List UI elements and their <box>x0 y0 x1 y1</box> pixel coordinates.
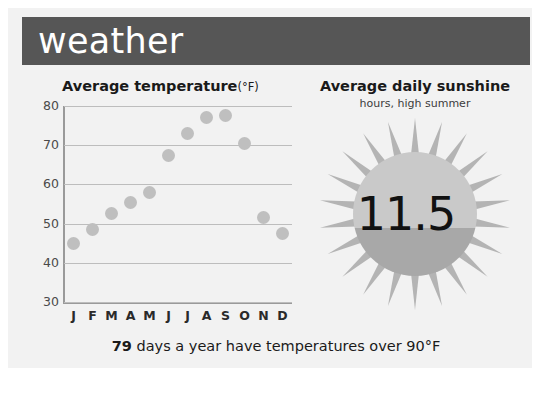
sun-ray <box>411 274 419 310</box>
temperature-chart-unit: (°F) <box>237 80 258 94</box>
sun-ray <box>444 133 467 166</box>
x-axis-tick-label: J <box>161 308 177 323</box>
x-axis-tick-label: A <box>123 308 139 323</box>
data-point <box>143 186 156 199</box>
sun-ray <box>363 262 386 295</box>
sun-ray <box>320 219 356 228</box>
sun-ray <box>428 270 442 306</box>
x-axis-tick-label: M <box>142 308 158 323</box>
sun-ray <box>468 235 503 254</box>
temperature-plot: 807060504030 JFMAMJJASOND <box>30 102 302 314</box>
x-axis-month-labels: JFMAMJJASOND <box>64 308 292 326</box>
data-point <box>105 207 118 220</box>
gridline <box>64 145 292 146</box>
x-axis-tick-label: A <box>199 308 215 323</box>
gridline <box>64 302 292 303</box>
sunshine-subtitle: hours, high summer <box>300 97 530 110</box>
sun-ray <box>388 122 402 158</box>
x-axis-tick-label: N <box>256 308 272 323</box>
sunshine-panel: Average daily sunshine hours, high summe… <box>300 78 530 338</box>
sun-ray <box>468 174 503 193</box>
sun-ray <box>474 200 510 209</box>
x-axis-tick-label: M <box>104 308 120 323</box>
y-axis-tick-label: 30 <box>31 296 59 308</box>
sun-icon <box>309 114 521 314</box>
y-axis-tick-label: 70 <box>31 139 59 151</box>
x-axis-tick-label: D <box>275 308 291 323</box>
gridline <box>64 224 292 225</box>
sun-disc-upper <box>353 152 477 228</box>
sun-ray <box>320 200 356 209</box>
y-axis-tick-label: 60 <box>31 178 59 190</box>
sun-ray <box>411 118 419 154</box>
sunshine-title: Average daily sunshine <box>300 78 530 94</box>
data-point <box>219 109 232 122</box>
page-title: weather <box>38 21 184 61</box>
y-axis-tick-label: 50 <box>31 218 59 230</box>
data-point <box>67 237 80 250</box>
temperature-chart-title-text: Average temperature <box>62 78 237 94</box>
sun-ray <box>328 235 363 254</box>
sun-ray <box>428 122 442 158</box>
gridline <box>64 184 292 185</box>
gridline <box>64 106 292 107</box>
data-point <box>181 127 194 140</box>
sun-ray <box>474 219 510 228</box>
x-axis-tick-label: F <box>85 308 101 323</box>
data-point <box>257 211 270 224</box>
plot-area <box>64 106 292 302</box>
y-axis-tick-label: 40 <box>31 257 59 269</box>
temperature-chart-panel: Average temperature(°F) 807060504030 JFM… <box>30 78 302 338</box>
x-axis-tick-label: O <box>237 308 253 323</box>
data-point <box>200 111 213 124</box>
footer-text: days a year have temperatures over 90°F <box>132 338 440 354</box>
gridline <box>64 263 292 264</box>
y-axis-tick-label: 80 <box>31 100 59 112</box>
footer-caption: 79 days a year have temperatures over 90… <box>22 338 530 354</box>
y-axis-tick-labels: 807060504030 <box>30 106 59 302</box>
data-point <box>162 149 175 162</box>
sun-ray <box>363 133 386 166</box>
sun-ray <box>388 270 402 306</box>
x-axis-tick-label: J <box>66 308 82 323</box>
x-axis-tick-label: J <box>180 308 196 323</box>
data-point <box>238 137 251 150</box>
data-point <box>276 227 289 240</box>
x-axis-tick-label: S <box>218 308 234 323</box>
footer-number: 79 <box>112 338 132 354</box>
data-point <box>86 223 99 236</box>
sun-ray <box>328 174 363 193</box>
data-point <box>124 196 137 209</box>
temperature-chart-title: Average temperature(°F) <box>62 78 259 94</box>
weather-infographic: weather Average temperature(°F) 80706050… <box>0 0 548 393</box>
sun-ray <box>444 262 467 295</box>
